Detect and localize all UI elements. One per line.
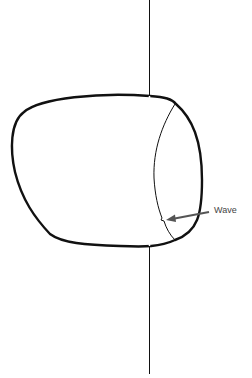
diagram-canvas xyxy=(0,0,252,378)
blob-outline xyxy=(12,95,202,247)
wave-label: Wave xyxy=(214,205,237,215)
